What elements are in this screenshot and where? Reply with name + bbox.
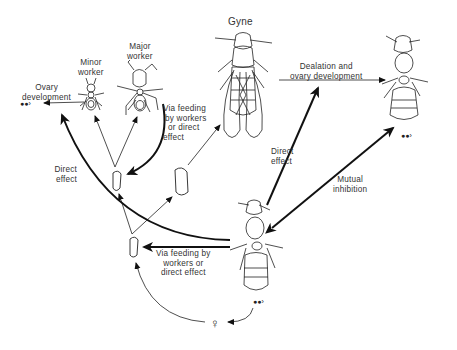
label-line: Direct bbox=[271, 147, 294, 157]
minor-worker-ant-icon bbox=[78, 78, 104, 110]
label-line: worker bbox=[127, 52, 153, 62]
gyne-ant-icon bbox=[215, 33, 272, 138]
label-line: Via feeding bbox=[163, 104, 207, 114]
label-line: workers or bbox=[156, 259, 211, 269]
label-line: inhibition bbox=[333, 185, 367, 195]
larva-right-icon bbox=[175, 168, 188, 195]
label-line: Mutual bbox=[333, 175, 367, 185]
minor-worker-label: Minor worker bbox=[78, 58, 104, 77]
dealation-label: Dealation and ovary development bbox=[290, 62, 363, 81]
direct-effect-left-label: Direct effect bbox=[48, 165, 77, 184]
major-worker-label: Major worker bbox=[127, 42, 153, 61]
arrow-egg-to-female bbox=[228, 308, 253, 322]
label-line: Ovary bbox=[22, 83, 71, 93]
larva-bottom-icon bbox=[130, 237, 138, 257]
egg-cluster-icon: ●●› bbox=[253, 298, 264, 305]
label-line: Minor bbox=[78, 58, 104, 68]
arrow-minor-to-ovary bbox=[44, 102, 84, 103]
label-line: Dealation and bbox=[290, 62, 363, 72]
major-worker-ant-icon bbox=[117, 60, 163, 115]
arrow-feeding-to-larva-left bbox=[128, 104, 165, 174]
label-line: worker bbox=[78, 68, 104, 78]
label-line: effect bbox=[271, 157, 294, 167]
gyne-label: Gyne bbox=[228, 16, 253, 27]
arrow-larva-bottom-to-left bbox=[119, 194, 132, 234]
label-line: ovary development bbox=[290, 72, 363, 82]
label-line: development bbox=[22, 93, 71, 103]
label-line: or direct bbox=[163, 123, 207, 133]
arrow-larva-to-minor bbox=[95, 116, 115, 167]
via-feeding-upper-label: Via feeding by workers or direct effect bbox=[163, 104, 207, 142]
label-line: Via feeding by bbox=[156, 249, 211, 259]
mutual-inhibition-label: Mutual inhibition bbox=[333, 175, 367, 194]
label-line: effect bbox=[48, 175, 77, 185]
dealate-queen-ant-icon: ●●› bbox=[382, 36, 428, 140]
female-symbol-icon: ♀ bbox=[210, 316, 220, 331]
larva-left-icon bbox=[113, 171, 121, 190]
arrow-larva-to-major bbox=[115, 117, 137, 167]
ovary-development-label: Ovary development bbox=[22, 83, 71, 102]
label-line: Major bbox=[127, 42, 153, 52]
mother-queen-ant-icon: ●●› bbox=[230, 200, 283, 305]
egg-cluster-icon: ●●› bbox=[401, 132, 412, 139]
label-line: Direct bbox=[48, 165, 77, 175]
label-line: by workers bbox=[163, 114, 207, 124]
label-line: direct effect bbox=[156, 268, 211, 278]
via-feeding-lower-label: Via feeding by workers or direct effect bbox=[156, 249, 211, 278]
label-line: effect bbox=[163, 133, 207, 143]
direct-effect-gyne-label: Direct effect bbox=[271, 147, 294, 166]
